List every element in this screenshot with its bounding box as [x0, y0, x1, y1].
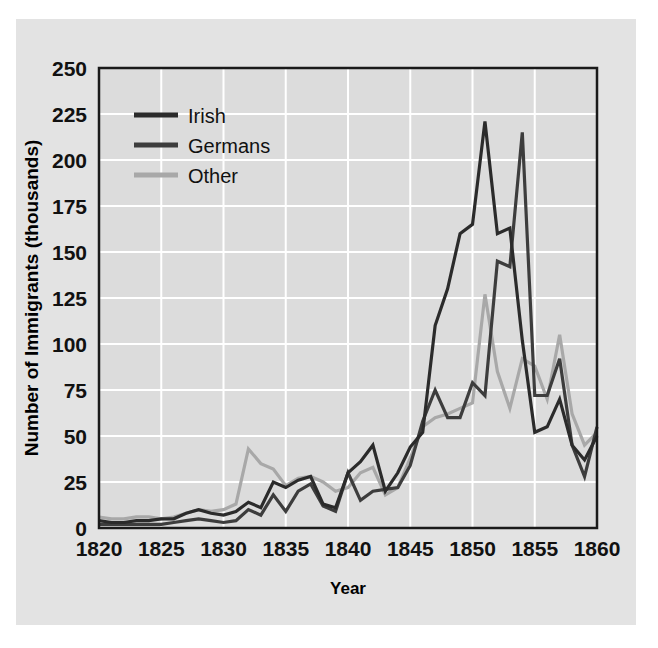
- x-tick-label: 1855: [511, 537, 558, 560]
- chart-canvas: 0255075100125150175200225250 18201825183…: [16, 19, 636, 625]
- y-axis-tick-labels: 0255075100125150175200225250: [52, 57, 87, 540]
- y-tick-label: 50: [64, 425, 87, 448]
- x-tick-label: 1845: [387, 537, 434, 560]
- y-tick-label: 175: [52, 195, 87, 218]
- y-tick-label: 200: [52, 149, 87, 172]
- x-tick-label: 1830: [200, 537, 247, 560]
- x-axis-tick-labels: 182018251830183518401845185018551860: [76, 537, 621, 560]
- x-tick-label: 1825: [138, 537, 185, 560]
- y-axis-title: Number of Immigrants (thousands): [21, 140, 42, 457]
- y-tick-label: 25: [64, 471, 88, 494]
- y-tick-label: 250: [52, 57, 87, 80]
- y-tick-label: 225: [52, 103, 87, 126]
- legend-label-irish: Irish: [188, 105, 226, 127]
- y-tick-label: 150: [52, 241, 87, 264]
- legend-label-germans: Germans: [188, 135, 270, 157]
- x-tick-label: 1840: [325, 537, 372, 560]
- figure-panel: 0255075100125150175200225250 18201825183…: [16, 19, 636, 625]
- line-chart: 0255075100125150175200225250 18201825183…: [16, 19, 636, 625]
- legend-label-other: Other: [188, 165, 238, 187]
- x-axis-title: Year: [330, 579, 366, 598]
- x-tick-label: 1820: [76, 537, 123, 560]
- x-tick-label: 1860: [574, 537, 621, 560]
- y-tick-label: 100: [52, 333, 87, 356]
- y-tick-label: 125: [52, 287, 87, 310]
- y-tick-label: 75: [64, 379, 88, 402]
- x-tick-label: 1835: [262, 537, 309, 560]
- x-tick-label: 1850: [449, 537, 496, 560]
